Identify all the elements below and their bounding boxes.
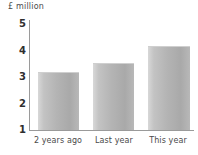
bar-2-years-ago bbox=[38, 72, 79, 130]
x-label-this-year: This year bbox=[142, 136, 194, 145]
bar-chart: £ million 5 4 3 2 1 2 years ago Last yea… bbox=[0, 0, 198, 155]
bar-this-year bbox=[148, 46, 190, 130]
bars-layer bbox=[0, 0, 198, 131]
x-label-2-years-ago: 2 years ago bbox=[29, 136, 87, 145]
x-label-last-year: Last year bbox=[88, 136, 140, 145]
bar-last-year bbox=[93, 63, 134, 130]
